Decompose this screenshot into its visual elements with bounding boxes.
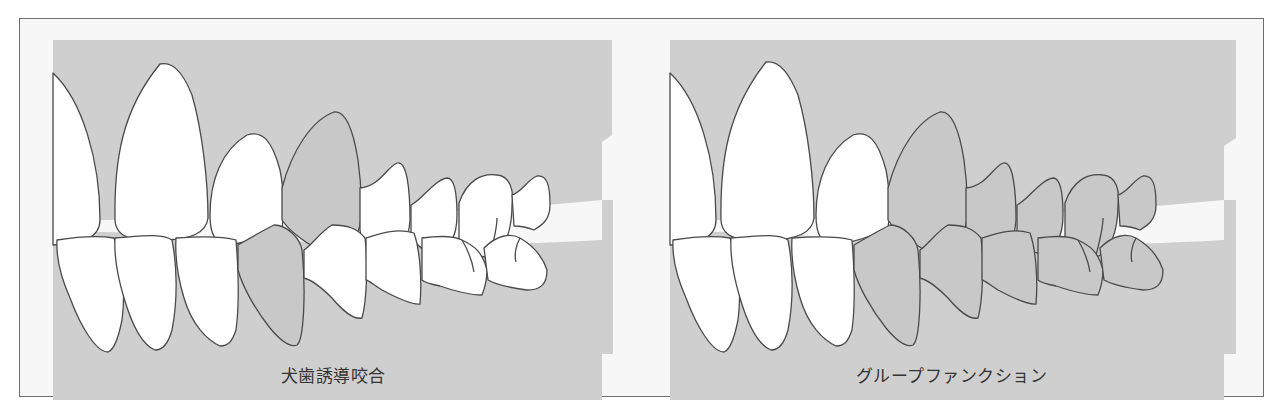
canine-guidance-illustration (42, 40, 624, 354)
panel-group-function (664, 40, 1239, 354)
caption-group-function: グループファンクション (664, 362, 1239, 387)
panel-canine-guidance (42, 40, 624, 354)
caption-canine-guidance: 犬歯誘導咬合 (42, 362, 624, 387)
group-function-illustration (664, 40, 1239, 354)
